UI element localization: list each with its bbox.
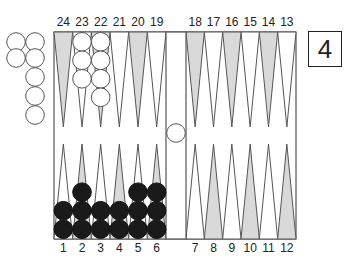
white-checker [73, 33, 92, 52]
point-label-3: 3 [92, 242, 110, 254]
black-checker [91, 220, 110, 239]
point-label-24: 24 [54, 16, 72, 28]
point-label-22: 22 [92, 16, 110, 28]
doubling-cube: 4 [308, 31, 342, 67]
black-checker [147, 201, 166, 220]
black-checker [73, 201, 92, 220]
point-label-16: 16 [223, 16, 241, 28]
point-label-13: 13 [278, 16, 296, 28]
point-label-20: 20 [129, 16, 147, 28]
backgammon-board [0, 0, 353, 266]
point-label-9: 9 [223, 242, 241, 254]
white-checker-on-bar [167, 124, 186, 143]
black-checker [110, 220, 129, 239]
white-checker [91, 51, 110, 70]
point-label-7: 7 [186, 242, 204, 254]
black-checker [129, 220, 148, 239]
black-checker [91, 201, 110, 220]
black-checker [129, 201, 148, 220]
point-label-5: 5 [129, 242, 147, 254]
point-label-10: 10 [241, 242, 259, 254]
point-label-1: 1 [54, 242, 72, 254]
point-label-2: 2 [73, 242, 91, 254]
black-checker [54, 201, 73, 220]
borne-off-white-checker [26, 87, 45, 106]
white-checker [91, 33, 110, 52]
white-checker [73, 70, 92, 89]
white-checker [91, 88, 110, 107]
point-label-21: 21 [110, 16, 128, 28]
point-label-19: 19 [148, 16, 166, 28]
black-checker [147, 220, 166, 239]
black-checker [110, 201, 129, 220]
black-checker [73, 183, 92, 202]
point-label-15: 15 [241, 16, 259, 28]
black-checker [129, 183, 148, 202]
cube-value: 4 [318, 34, 332, 65]
point-label-11: 11 [260, 242, 278, 254]
white-checker [73, 51, 92, 70]
black-checker [54, 220, 73, 239]
borne-off-white-checker [7, 49, 26, 68]
black-checker [73, 220, 92, 239]
white-checker [91, 70, 110, 89]
point-label-8: 8 [205, 242, 223, 254]
black-checker [147, 183, 166, 202]
borne-off-white-checker [26, 49, 45, 68]
point-label-6: 6 [148, 242, 166, 254]
point-label-12: 12 [278, 242, 296, 254]
point-label-18: 18 [186, 16, 204, 28]
point-label-4: 4 [110, 242, 128, 254]
point-label-23: 23 [73, 16, 91, 28]
point-label-17: 17 [205, 16, 223, 28]
borne-off-white-checker [26, 68, 45, 87]
borne-off-white-checker [26, 106, 45, 125]
point-label-14: 14 [260, 16, 278, 28]
